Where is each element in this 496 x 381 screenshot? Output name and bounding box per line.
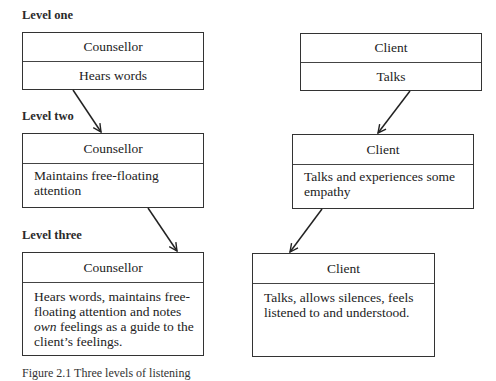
figure-caption: Figure 2.1 Three levels of listening [22, 366, 190, 381]
arrow-client-l1-l2 [378, 91, 410, 133]
arrow-counsellor-l2-l3 [148, 208, 177, 251]
arrow-counsellor-l1-l2 [73, 90, 101, 132]
arrow-client-l2-l3 [290, 209, 322, 252]
